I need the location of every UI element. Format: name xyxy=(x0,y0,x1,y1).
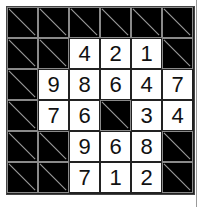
diagonal-divider-icon xyxy=(163,163,192,192)
block-cell xyxy=(38,131,69,162)
block-cell xyxy=(7,100,38,131)
block-cell xyxy=(162,131,193,162)
cell-digit: 2 xyxy=(140,167,152,189)
diagonal-divider-icon xyxy=(101,8,130,37)
block-cell xyxy=(38,38,69,69)
diagonal-divider-icon xyxy=(163,39,192,68)
diagonal-divider-icon xyxy=(39,132,68,161)
cell-digit: 3 xyxy=(140,105,152,127)
diagonal-divider-icon xyxy=(132,8,161,37)
cell-digit: 9 xyxy=(78,136,90,158)
block-cell xyxy=(69,7,100,38)
diagonal-divider-icon xyxy=(163,8,192,37)
cell-digit: 1 xyxy=(109,167,121,189)
diagonal-divider-icon xyxy=(163,132,192,161)
diagonal-divider-icon xyxy=(8,70,37,99)
diagonal-divider-icon xyxy=(39,39,68,68)
diagonal-divider-icon xyxy=(8,8,37,37)
cell-digit: 9 xyxy=(47,74,59,96)
block-cell xyxy=(162,38,193,69)
entry-cell[interactable]: 2 xyxy=(131,162,162,193)
diagonal-divider-icon xyxy=(8,132,37,161)
entry-cell[interactable]: 4 xyxy=(131,69,162,100)
entry-cell[interactable]: 8 xyxy=(131,131,162,162)
block-cell xyxy=(131,7,162,38)
cell-digit: 6 xyxy=(109,74,121,96)
entry-cell[interactable]: 1 xyxy=(100,162,131,193)
diagonal-divider-icon xyxy=(39,8,68,37)
entry-cell[interactable]: 6 xyxy=(100,131,131,162)
diagonal-divider-icon xyxy=(101,101,130,130)
block-cell xyxy=(7,131,38,162)
diagonal-divider-icon xyxy=(8,39,37,68)
entry-cell[interactable]: 7 xyxy=(38,100,69,131)
cell-digit: 8 xyxy=(78,74,90,96)
window-frame-edge xyxy=(196,0,197,207)
entry-cell[interactable]: 9 xyxy=(69,131,100,162)
entry-cell[interactable]: 4 xyxy=(69,38,100,69)
entry-cell[interactable]: 6 xyxy=(69,100,100,131)
cell-digit: 8 xyxy=(140,136,152,158)
cell-digit: 1 xyxy=(140,43,152,65)
cell-digit: 6 xyxy=(78,105,90,127)
entry-cell[interactable]: 1 xyxy=(131,38,162,69)
cell-digit: 4 xyxy=(78,43,90,65)
entry-cell[interactable]: 4 xyxy=(162,100,193,131)
block-cell xyxy=(38,7,69,38)
block-cell xyxy=(7,162,38,193)
entry-cell[interactable]: 8 xyxy=(69,69,100,100)
block-cell xyxy=(100,100,131,131)
cell-digit: 2 xyxy=(109,43,121,65)
diagonal-divider-icon xyxy=(39,163,68,192)
entry-cell[interactable]: 7 xyxy=(69,162,100,193)
block-cell xyxy=(38,162,69,193)
cell-digit: 6 xyxy=(109,136,121,158)
diagonal-divider-icon xyxy=(70,8,99,37)
entry-cell[interactable]: 2 xyxy=(100,38,131,69)
entry-cell[interactable]: 9 xyxy=(38,69,69,100)
cell-digit: 4 xyxy=(140,74,152,96)
block-cell xyxy=(162,7,193,38)
cell-digit: 7 xyxy=(171,74,183,96)
cell-digit: 4 xyxy=(171,105,183,127)
diagonal-divider-icon xyxy=(8,163,37,192)
entry-cell[interactable]: 6 xyxy=(100,69,131,100)
block-cell xyxy=(162,162,193,193)
kakuro-grid: 421986477634968712 xyxy=(6,6,195,195)
cell-digit: 7 xyxy=(47,105,59,127)
block-cell xyxy=(7,7,38,38)
entry-cell[interactable]: 7 xyxy=(162,69,193,100)
block-cell xyxy=(7,69,38,100)
diagonal-divider-icon xyxy=(8,101,37,130)
cell-digit: 7 xyxy=(78,167,90,189)
block-cell xyxy=(100,7,131,38)
block-cell xyxy=(7,38,38,69)
entry-cell[interactable]: 3 xyxy=(131,100,162,131)
